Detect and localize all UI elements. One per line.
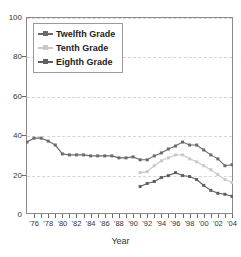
x-tick-mark <box>154 214 155 218</box>
x-tick-mark <box>76 214 77 218</box>
x-tick-label: '98 <box>185 219 195 228</box>
x-tick-mark <box>126 214 127 218</box>
x-tick-mark <box>98 214 99 218</box>
x-tick-label: '90 <box>128 219 138 228</box>
legend-marker-icon <box>38 43 53 53</box>
x-axis-labels: '76'78'80'82'84'86'88'90'92'94'96'98'00'… <box>0 219 241 231</box>
legend-marker-icon <box>38 57 53 67</box>
x-tick-label: '92 <box>142 219 152 228</box>
x-tick-mark <box>197 214 198 218</box>
x-tick-mark <box>119 214 120 218</box>
x-tick-mark <box>204 214 205 218</box>
y-tick-label: 60 <box>13 91 22 100</box>
gridline <box>27 18 232 19</box>
line-chart: 020406080100 '76'78'80'82'84'86'88'90'92… <box>0 0 241 257</box>
gridline <box>27 176 232 177</box>
x-tick-mark <box>140 214 141 218</box>
gridline <box>27 97 232 98</box>
x-tick-mark <box>55 214 56 218</box>
x-tick-mark <box>225 214 226 218</box>
legend: Twelfth GradeTenth GradeEighth Grade <box>33 23 123 73</box>
legend-marker-icon <box>38 29 53 39</box>
x-tick-label: '82 <box>72 219 82 228</box>
y-tick-label: 80 <box>13 52 22 61</box>
legend-label: Eighth Grade <box>56 57 113 67</box>
x-tick-mark <box>232 214 233 218</box>
x-tick-mark <box>84 214 85 218</box>
x-tick-mark <box>91 214 92 218</box>
x-tick-label: '04 <box>227 219 237 228</box>
x-tick-label: '88 <box>114 219 124 228</box>
x-tick-mark <box>62 214 63 218</box>
x-tick-mark <box>211 214 212 218</box>
y-tick-label: 100 <box>9 13 22 22</box>
legend-item: Eighth Grade <box>38 55 115 69</box>
x-tick-label: '86 <box>100 219 110 228</box>
y-tick-label: 20 <box>13 170 22 179</box>
x-tick-mark <box>147 214 148 218</box>
x-tick-mark <box>112 214 113 218</box>
x-tick-label: '00 <box>199 219 209 228</box>
legend-item: Twelfth Grade <box>38 27 115 41</box>
x-tick-label: '80 <box>57 219 67 228</box>
legend-label: Twelfth Grade <box>56 29 115 39</box>
y-tick-mark <box>22 135 26 136</box>
legend-label: Tenth Grade <box>56 43 108 53</box>
y-tick-mark <box>22 96 26 97</box>
x-tick-mark <box>175 214 176 218</box>
x-tick-mark <box>34 214 35 218</box>
x-tick-label: '84 <box>86 219 96 228</box>
x-axis-ticks <box>26 214 233 218</box>
x-tick-label: '02 <box>213 219 223 228</box>
x-tick-mark <box>218 214 219 218</box>
x-tick-mark <box>168 214 169 218</box>
x-tick-label: '94 <box>156 219 166 228</box>
x-tick-mark <box>183 214 184 218</box>
x-tick-mark <box>69 214 70 218</box>
y-tick-mark <box>22 56 26 57</box>
x-tick-mark <box>41 214 42 218</box>
x-tick-mark <box>161 214 162 218</box>
x-tick-mark <box>133 214 134 218</box>
gridline <box>27 136 232 137</box>
chart-title <box>0 0 241 9</box>
x-tick-mark <box>190 214 191 218</box>
x-tick-label: '96 <box>171 219 181 228</box>
x-tick-mark <box>48 214 49 218</box>
y-axis: 020406080100 <box>0 0 26 215</box>
x-tick-label: '76 <box>29 219 39 228</box>
y-tick-label: 0 <box>18 210 22 219</box>
y-tick-mark <box>22 175 26 176</box>
x-axis-title: Year <box>0 236 241 246</box>
y-tick-label: 40 <box>13 131 22 140</box>
x-tick-label: '78 <box>43 219 53 228</box>
legend-item: Tenth Grade <box>38 41 115 55</box>
x-tick-mark <box>105 214 106 218</box>
